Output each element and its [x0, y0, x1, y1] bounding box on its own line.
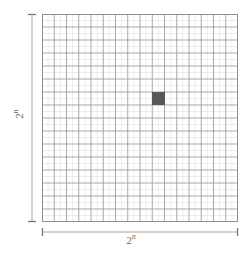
vertical-measure-rule	[26, 10, 38, 226]
grid-diagram: 2n 2n	[0, 0, 252, 259]
horizontal-axis-label: 2n	[116, 234, 146, 246]
vertical-axis-label-exponent: n	[11, 109, 20, 113]
highlighted-cell	[152, 92, 164, 105]
grid-major-lines	[42, 14, 238, 222]
horizontal-axis-label-exponent: n	[132, 232, 136, 241]
grid-border	[42, 14, 238, 222]
grid-area	[42, 14, 238, 222]
grid-minor-lines	[42, 14, 238, 222]
vertical-axis-label-base: 2	[13, 113, 25, 119]
vertical-axis-label: 2n	[13, 101, 25, 127]
